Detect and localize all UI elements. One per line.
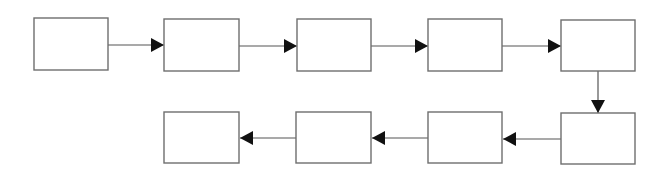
node-box [34, 18, 108, 70]
node-box [428, 112, 502, 163]
flow-arrow-4 [502, 39, 561, 53]
flow-node-7 [428, 112, 502, 163]
node-box [297, 19, 371, 71]
flow-arrow-5 [591, 71, 605, 113]
arrowhead-left-icon [503, 132, 516, 146]
nodes-layer [34, 18, 635, 164]
node-box [561, 113, 635, 164]
node-box [164, 112, 239, 163]
flow-diagram [0, 0, 663, 172]
arrowhead-right-icon [548, 39, 561, 53]
arrowhead-right-icon [284, 39, 297, 53]
node-box [296, 112, 371, 163]
flow-arrow-7 [372, 131, 428, 145]
arrowhead-left-icon [372, 131, 385, 145]
node-box [428, 19, 502, 71]
flow-arrow-8 [240, 131, 296, 145]
flow-node-1 [34, 18, 108, 70]
flow-node-4 [428, 19, 502, 71]
flow-node-2 [164, 19, 239, 71]
flow-node-6 [561, 113, 635, 164]
node-box [561, 20, 635, 71]
flow-node-5 [561, 20, 635, 71]
flow-arrow-3 [371, 39, 428, 53]
arrowhead-right-icon [151, 38, 164, 52]
arrowhead-down-icon [591, 100, 605, 113]
flow-arrow-6 [503, 132, 561, 146]
flow-node-8 [296, 112, 371, 163]
flow-arrow-2 [239, 39, 297, 53]
flow-arrow-1 [108, 38, 164, 52]
arrowhead-right-icon [415, 39, 428, 53]
node-box [164, 19, 239, 71]
flow-node-9 [164, 112, 239, 163]
arrowhead-left-icon [240, 131, 253, 145]
flow-node-3 [297, 19, 371, 71]
